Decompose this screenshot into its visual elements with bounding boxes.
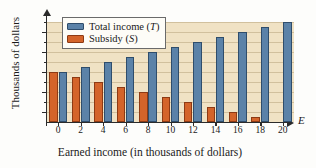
legend-label-subsidy: Subsidy (S) — [89, 33, 138, 45]
y-axis-tick — [42, 72, 47, 73]
legend-item-subsidy: Subsidy (S) — [67, 33, 159, 45]
bar-subsidy — [162, 97, 170, 122]
y-axis-line — [46, 14, 47, 126]
y-axis-tick — [44, 82, 48, 83]
y-axis-tick — [42, 92, 47, 93]
y-axis-tick — [44, 62, 48, 63]
x-axis-title: Earned income (in thousands of dollars) — [0, 146, 300, 158]
y-axis-tick — [44, 22, 48, 23]
chart-figure: Thousands of dollars Earned income (in t… — [0, 0, 316, 168]
bar-total-income — [59, 72, 67, 122]
bar-subsidy — [139, 92, 147, 122]
y-axis-tick — [44, 102, 48, 103]
chart-legend: Total income (T) Subsidy (S) — [62, 17, 166, 49]
bar-subsidy — [184, 102, 192, 122]
legend-item-total-income: Total income (T) — [67, 21, 159, 33]
bar-subsidy — [94, 82, 102, 122]
x-axis-tick-label: 2 — [71, 126, 91, 136]
bar-subsidy — [49, 72, 57, 122]
y-axis-tick — [42, 112, 47, 113]
y-axis-tick — [44, 42, 48, 43]
y-axis-arrow-icon — [43, 9, 51, 16]
y-axis-tick — [42, 52, 47, 53]
y-axis-tick — [42, 32, 47, 33]
legend-label-total-income: Total income (T) — [89, 21, 159, 33]
bar-subsidy — [207, 107, 215, 122]
legend-swatch-total-income — [67, 23, 84, 31]
legend-swatch-subsidy — [67, 35, 84, 43]
bar-total-income — [81, 67, 89, 122]
bar-total-income — [283, 22, 291, 122]
bar-total-income — [126, 57, 134, 122]
y-axis-title: Thousands of dollars — [9, 4, 21, 122]
bar-subsidy — [229, 112, 237, 122]
x-axis-symbol-label: E — [298, 114, 305, 126]
x-axis-tick-label: 6 — [116, 126, 136, 136]
x-axis-tick-label: 10 — [161, 126, 181, 136]
bar-total-income — [171, 47, 179, 122]
bar-total-income — [238, 32, 246, 122]
x-axis-tick-label: 20 — [273, 126, 293, 136]
x-axis-tick-label: 16 — [228, 126, 248, 136]
x-axis-tick-label: 12 — [183, 126, 203, 136]
bar-total-income — [216, 37, 224, 122]
x-axis-tick-label: 8 — [138, 126, 158, 136]
bar-subsidy — [117, 87, 125, 122]
bar-total-income — [104, 62, 112, 122]
bar-subsidy — [72, 77, 80, 122]
bar-total-income — [261, 27, 269, 122]
bar-total-income — [193, 42, 201, 122]
x-axis-tick-label: 14 — [205, 126, 225, 136]
bar-total-income — [148, 52, 156, 122]
x-axis-tick-label: 0 — [48, 126, 68, 136]
x-axis-tick-label: 18 — [250, 126, 270, 136]
bar-subsidy — [251, 117, 259, 122]
x-axis-tick-label: 4 — [93, 126, 113, 136]
